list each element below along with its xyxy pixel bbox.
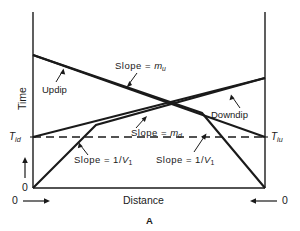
y-axis-title: Time	[17, 87, 28, 110]
slope-v1-left-label: Slope = 1/V1	[74, 155, 132, 165]
slope-mu-text: Slope =	[115, 60, 154, 71]
tiu-subscript: iu	[277, 135, 283, 144]
slope-md-text: Slope =	[131, 127, 170, 138]
downdip-label: Downdip	[211, 110, 248, 120]
updip-label: Updip	[42, 85, 67, 95]
x-axis-title: Distance	[123, 195, 164, 206]
slope-v1-right-label: Slope = 1/V1	[156, 155, 214, 165]
slope-md-subscript: d	[178, 132, 182, 139]
right-distance-origin-label: 0	[282, 195, 288, 206]
y-origin-label: 0	[22, 182, 28, 193]
time-axis-arrow-icon	[22, 157, 28, 178]
slope-md-label: Slope = md	[131, 128, 182, 138]
slope-v1-left-subscript: 1	[128, 159, 132, 166]
right-shot-traveltime-curve	[33, 55, 265, 188]
tid-subscript: id	[15, 135, 21, 144]
panel-label: A	[146, 216, 153, 226]
downdip-leader-icon	[230, 95, 241, 109]
right-distance-arrow-icon	[250, 198, 277, 204]
left-distance-arrow-icon	[23, 198, 50, 204]
slope-mu-label: Slope = mu	[115, 61, 166, 71]
slope-v1-right-subscript: 1	[210, 159, 214, 166]
slope-v1-left-text: Slope = 1/	[74, 154, 122, 165]
slope-mu-symbol: m	[154, 60, 162, 71]
slope-v1-right-text: Slope = 1/	[156, 154, 204, 165]
slope-mu-leader-icon	[127, 73, 138, 88]
figure-container: Time 0 0 Distance 0 Tid Tiu Updip Downdi…	[0, 0, 300, 231]
left-distance-origin-label: 0	[12, 195, 18, 206]
slope-md-symbol: m	[170, 127, 178, 138]
intercept-time-tiu-label: Tiu	[271, 132, 283, 142]
intercept-time-tid-label: Tid	[9, 132, 21, 142]
slope-mu-subscript: u	[162, 65, 166, 72]
updip-leader-icon	[56, 69, 65, 83]
